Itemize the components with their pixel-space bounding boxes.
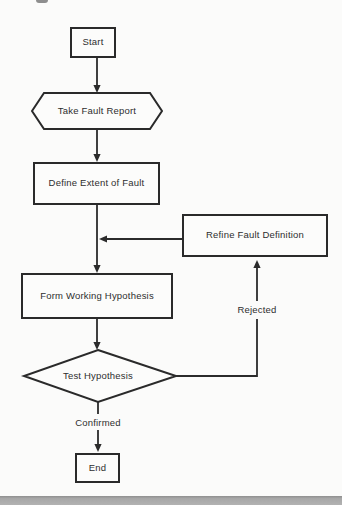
node-form-working-hypothesis-label: Form Working Hypothesis: [40, 291, 154, 301]
arrowhead-down-icon: [93, 85, 100, 93]
node-refine-fault-definition-label: Refine Fault Definition: [206, 230, 304, 240]
arrowhead-down-icon: [93, 342, 100, 350]
node-take-fault-report-label: Take Fault Report: [44, 93, 150, 129]
arrowhead-up-icon: [253, 260, 260, 268]
flowchart-canvas: Start Take Fault Report Define Extent of…: [0, 0, 342, 505]
page-bottom-bar: [0, 496, 342, 505]
node-define-extent-of-fault-label: Define Extent of Fault: [49, 178, 145, 188]
arrowhead-left-icon: [99, 235, 107, 242]
node-end-label: End: [89, 463, 107, 473]
arrowhead-down-icon: [94, 444, 101, 452]
edge-label-confirmed: Confirmed: [72, 415, 124, 429]
node-form-working-hypothesis: Form Working Hypothesis: [21, 273, 173, 319]
node-start: Start: [70, 27, 116, 58]
edge-label-rejected: Rejected: [234, 302, 280, 317]
node-define-extent-of-fault: Define Extent of Fault: [33, 162, 160, 205]
arrowhead-down-icon: [93, 154, 100, 162]
arrowhead-down-icon: [93, 265, 100, 273]
edge-rejected-lower: [176, 319, 257, 376]
node-start-label: Start: [82, 37, 103, 47]
node-refine-fault-definition: Refine Fault Definition: [182, 214, 328, 257]
node-test-hypothesis-label: Test Hypothesis: [36, 358, 160, 394]
node-end: End: [75, 453, 120, 483]
